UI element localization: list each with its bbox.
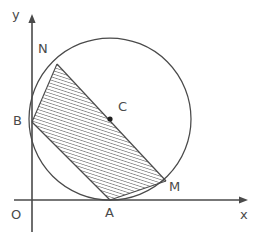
point-label-M: M <box>169 180 180 193</box>
geometry-figure: y x O N B C M A <box>0 0 258 244</box>
center-dot <box>107 116 112 121</box>
point-label-A: A <box>105 206 114 219</box>
point-label-C: C <box>118 100 127 113</box>
geometry-canvas <box>0 0 258 244</box>
band-polygon <box>32 64 166 200</box>
x-axis-label: x <box>240 208 248 221</box>
point-label-B: B <box>13 114 22 127</box>
origin-label: O <box>11 208 21 221</box>
point-label-N: N <box>38 42 48 55</box>
y-axis-label: y <box>12 8 20 21</box>
center-point-group <box>107 116 112 121</box>
